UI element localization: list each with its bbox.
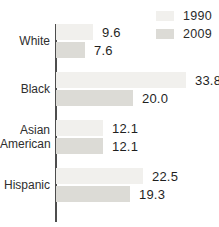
value-label: 22.5 <box>152 169 178 184</box>
bar-row: 22.5 <box>56 168 219 184</box>
bar-row: 12.1 <box>56 138 219 154</box>
bar-asian-american-1990 <box>56 120 103 136</box>
bar-row: 19.3 <box>56 186 219 202</box>
value-label: 20.0 <box>142 91 168 106</box>
category-label: Black <box>0 82 56 96</box>
value-label: 33.8 <box>195 73 219 88</box>
bar-row: 9.6 <box>56 24 219 40</box>
category-group-asian-american: Asian American12.112.1 <box>0 120 219 154</box>
category-group-black: Black33.820.0 <box>0 72 219 106</box>
category-group-hispanic: Hispanic22.519.3 <box>0 168 219 202</box>
category-label: White <box>0 34 56 48</box>
bars-container: 9.67.6 <box>56 24 219 58</box>
category-label: Hispanic <box>0 178 56 192</box>
legend-label-1990: 1990 <box>183 9 212 23</box>
category-group-white: White9.67.6 <box>0 24 219 58</box>
value-label: 7.6 <box>94 43 113 58</box>
bar-chart: 1990 2009 White9.67.6Black33.820.0Asian … <box>0 0 219 227</box>
bars-container: 33.820.0 <box>56 72 219 106</box>
bar-row: 20.0 <box>56 90 219 106</box>
bar-hispanic-2009 <box>56 186 130 202</box>
bar-black-1990 <box>56 72 186 88</box>
category-label: Asian American <box>0 123 56 151</box>
plot-area: White9.67.6Black33.820.0Asian American12… <box>0 24 219 202</box>
bar-row: 33.8 <box>56 72 219 88</box>
bars-container: 22.519.3 <box>56 168 219 202</box>
bar-hispanic-1990 <box>56 168 143 184</box>
bar-black-2009 <box>56 90 133 106</box>
bar-white-2009 <box>56 42 85 58</box>
value-label: 12.1 <box>112 121 138 136</box>
bar-asian-american-2009 <box>56 138 103 154</box>
legend-row-1990: 1990 <box>156 7 212 25</box>
value-label: 12.1 <box>112 139 138 154</box>
legend-swatch-1990 <box>156 11 174 21</box>
value-label: 9.6 <box>102 25 121 40</box>
value-label: 19.3 <box>139 187 165 202</box>
bar-row: 7.6 <box>56 42 219 58</box>
bar-white-1990 <box>56 24 93 40</box>
bars-container: 12.112.1 <box>56 120 219 154</box>
bar-row: 12.1 <box>56 120 219 136</box>
